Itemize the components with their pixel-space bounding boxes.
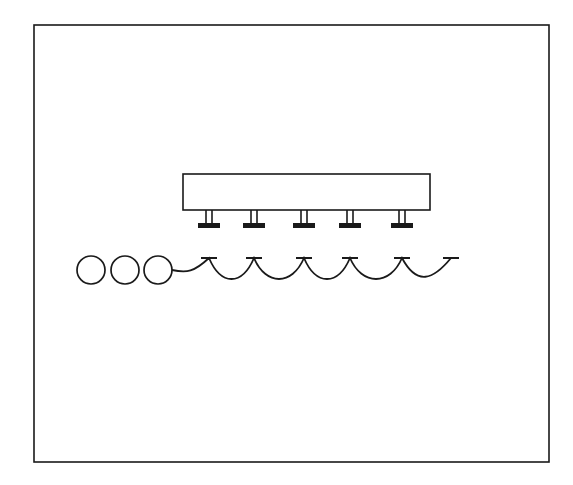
roller-3 <box>144 256 172 284</box>
roller-1 <box>77 256 105 284</box>
nozzle-group <box>198 210 413 228</box>
roller-2 <box>111 256 139 284</box>
nozzle-5 <box>391 210 413 228</box>
nozzle-3 <box>293 210 315 228</box>
roller-group <box>77 256 172 284</box>
nozzle-1 <box>198 210 220 228</box>
nozzle-2 <box>243 210 265 228</box>
diagram-frame <box>34 25 549 462</box>
diagram-canvas <box>0 0 573 485</box>
print-head <box>183 174 430 210</box>
substrate-web <box>172 258 451 279</box>
nozzle-4 <box>339 210 361 228</box>
